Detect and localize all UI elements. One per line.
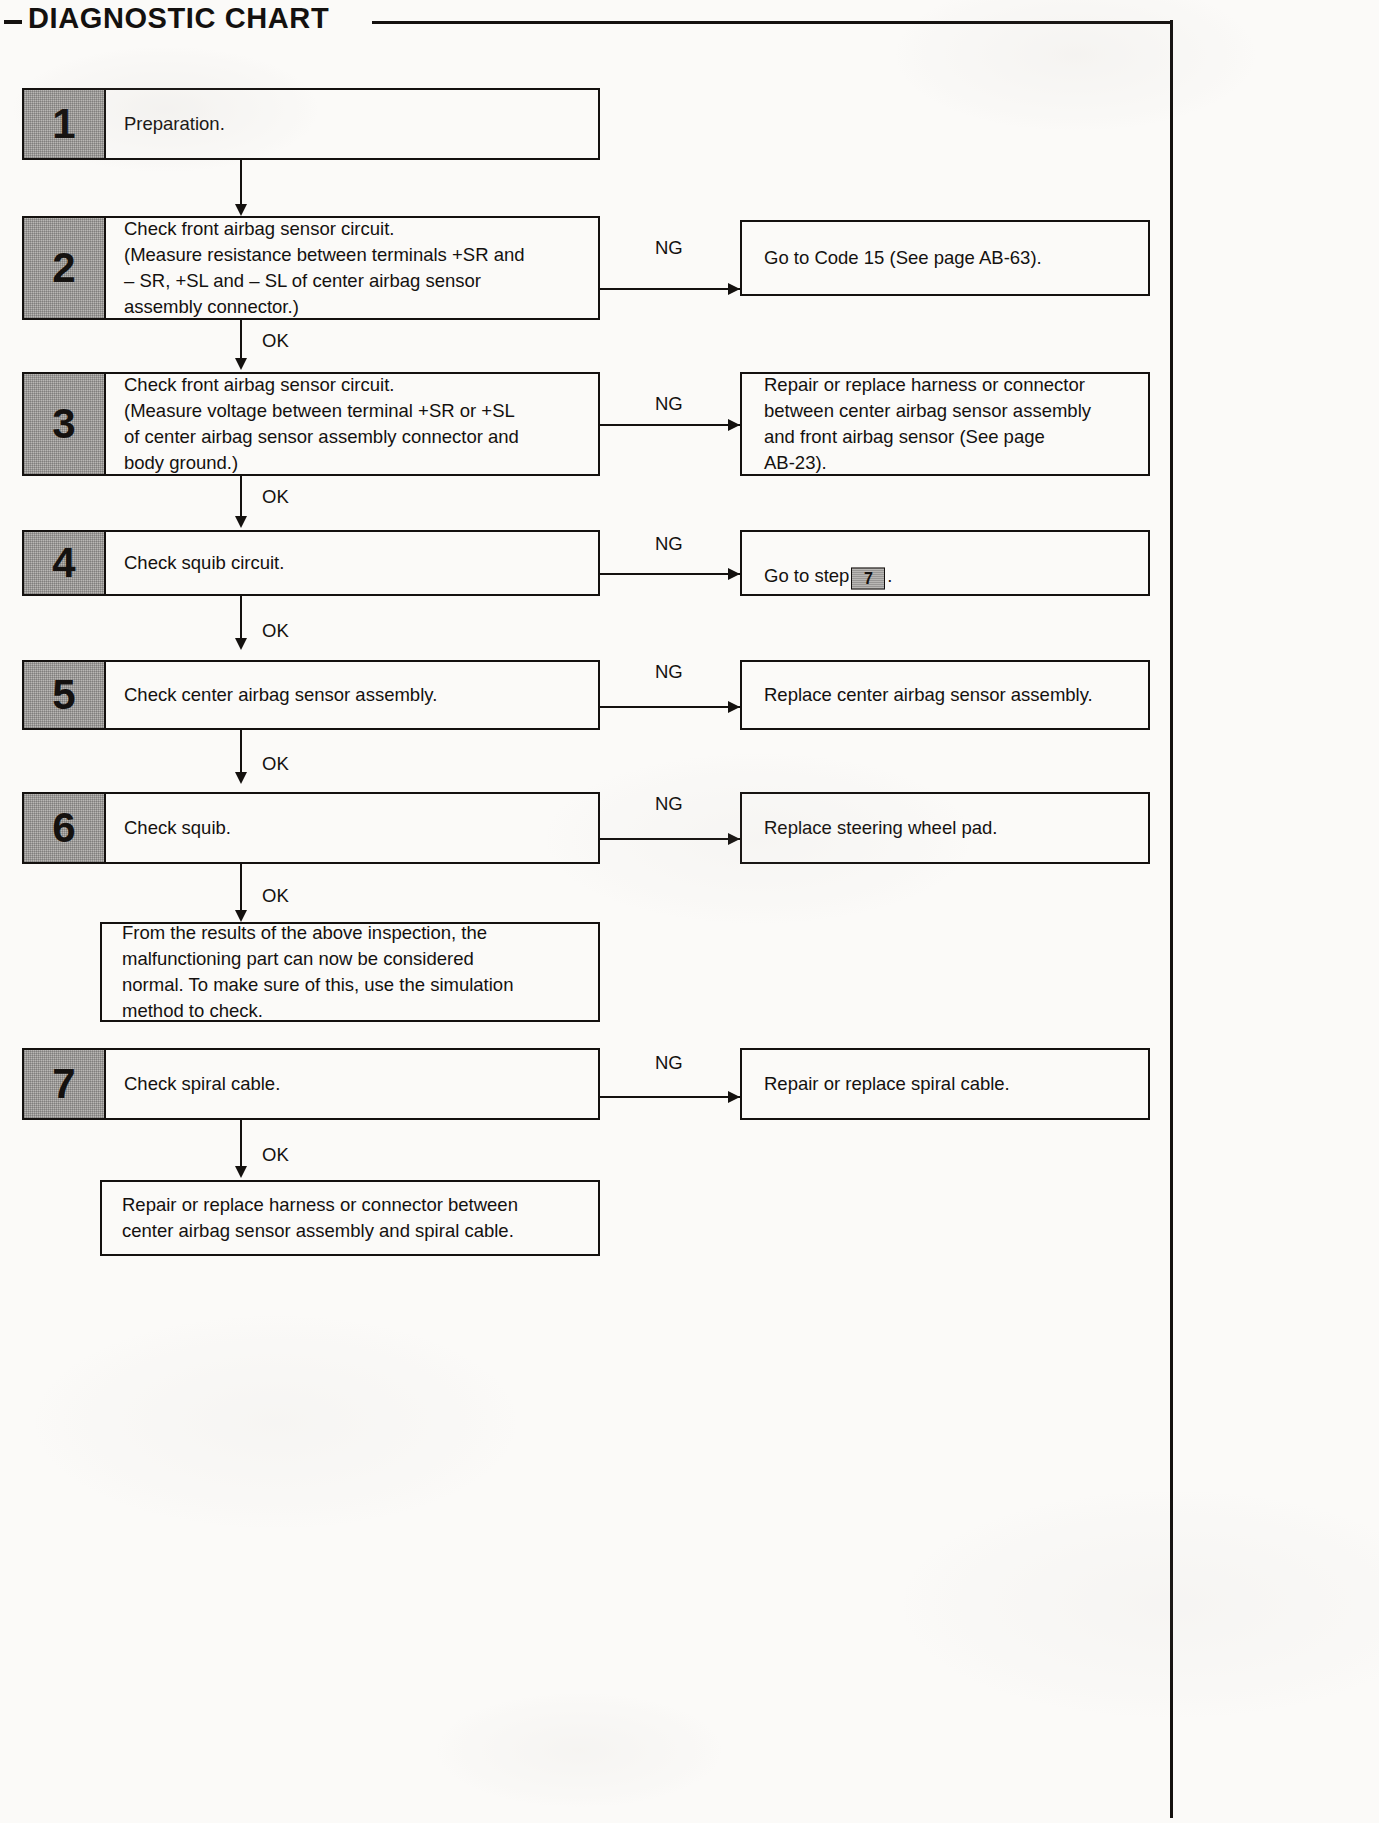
final-action-box[interactable]: Repair or replace harness or connector b… xyxy=(100,1180,600,1256)
connector-step1-step2 xyxy=(240,160,242,206)
step-5-badge: 5 xyxy=(24,662,106,728)
header-rule xyxy=(372,21,1172,24)
arrow-step2-ng xyxy=(728,283,740,295)
step-4-box[interactable]: 4 Check squib circuit. xyxy=(22,530,600,596)
arrow-step4-ng xyxy=(728,568,740,580)
final-action-text: Repair or replace harness or connector b… xyxy=(122,1192,586,1244)
arrow-step3-ng xyxy=(728,419,740,431)
step-7-ng-label: NG xyxy=(655,1052,683,1074)
page-title: DIAGNOSTIC CHART xyxy=(28,2,329,35)
step-3-box[interactable]: 3 Check front airbag sensor circuit. (Me… xyxy=(22,372,600,476)
diagnostic-chart-page: DIAGNOSTIC CHART 1 Preparation. 2 Check … xyxy=(0,0,1379,1823)
step-6-ng-text: Replace steering wheel pad. xyxy=(764,815,1134,841)
step-3-ok-label: OK xyxy=(262,486,289,508)
step-7-ng-text: Repair or replace spiral cable. xyxy=(764,1071,1134,1097)
step-2-ng-label: NG xyxy=(655,237,683,259)
step-1-number: 1 xyxy=(52,103,75,145)
step-4-ng-text-before: Go to step xyxy=(764,565,849,586)
step-7-badge: 7 xyxy=(24,1050,106,1118)
step-7-box[interactable]: 7 Check spiral cable. xyxy=(22,1048,600,1120)
header-dash-icon xyxy=(4,20,22,24)
step-4-ng-label: NG xyxy=(655,533,683,555)
step-6-ng-box[interactable]: Replace steering wheel pad. xyxy=(740,792,1150,864)
step-7-number: 7 xyxy=(52,1063,75,1105)
step-3-number: 3 xyxy=(52,403,75,445)
step-7-text: Check spiral cable. xyxy=(124,1071,586,1097)
step-2-ok-label: OK xyxy=(262,330,289,352)
step-1-badge: 1 xyxy=(24,90,106,158)
connector-step6-note xyxy=(240,864,242,912)
connector-step4-ng xyxy=(600,573,740,575)
step-6-box[interactable]: 6 Check squib. xyxy=(22,792,600,864)
step-6-ok-label: OK xyxy=(262,885,289,907)
normal-result-note-box[interactable]: From the results of the above inspection… xyxy=(100,922,600,1022)
connector-step3-ng xyxy=(600,424,740,426)
step-1-text: Preparation. xyxy=(124,111,586,137)
arrow-step1-step2 xyxy=(235,204,247,216)
page-frame-right-border xyxy=(1170,20,1173,1818)
step-5-ng-label: NG xyxy=(655,661,683,683)
step-2-ng-text: Go to Code 15 (See page AB-63). xyxy=(764,245,1134,271)
step-2-box[interactable]: 2 Check front airbag sensor circuit. (Me… xyxy=(22,216,600,320)
step-4-ng-text-after: . xyxy=(887,565,892,586)
connector-step7-ng xyxy=(600,1096,740,1098)
step-2-ng-box[interactable]: Go to Code 15 (See page AB-63). xyxy=(740,220,1150,296)
step-6-text: Check squib. xyxy=(124,815,586,841)
connector-step2-ng xyxy=(600,288,740,290)
arrow-step3-step4 xyxy=(235,516,247,528)
connector-step3-step4 xyxy=(240,476,242,518)
step-5-box[interactable]: 5 Check center airbag sensor assembly. xyxy=(22,660,600,730)
step-2-text: Check front airbag sensor circuit. (Meas… xyxy=(124,216,586,320)
arrow-step5-ng xyxy=(728,701,740,713)
arrow-step5-step6 xyxy=(235,772,247,784)
connector-step4-step5 xyxy=(240,596,242,640)
step-2-number: 2 xyxy=(52,247,75,289)
step-3-ng-box[interactable]: Repair or replace harness or connector b… xyxy=(740,372,1150,476)
step-3-badge: 3 xyxy=(24,374,106,474)
step-4-badge: 4 xyxy=(24,532,106,594)
step-5-text: Check center airbag sensor assembly. xyxy=(124,682,586,708)
connector-step6-ng xyxy=(600,838,740,840)
step-2-badge: 2 xyxy=(24,218,106,318)
step-6-ng-label: NG xyxy=(655,793,683,815)
step-7-reference-chip[interactable]: 7 xyxy=(851,568,885,590)
step-4-ok-label: OK xyxy=(262,620,289,642)
step-4-ng-box[interactable]: Go to step7. xyxy=(740,530,1150,596)
step-1-box[interactable]: 1 Preparation. xyxy=(22,88,600,160)
step-5-number: 5 xyxy=(52,674,75,716)
arrow-step7-ng xyxy=(728,1091,740,1103)
step-5-ng-box[interactable]: Replace center airbag sensor assembly. xyxy=(740,660,1150,730)
step-4-ng-text: Go to step7. xyxy=(764,537,1134,590)
arrow-step7-final xyxy=(235,1166,247,1178)
step-4-text: Check squib circuit. xyxy=(124,550,586,576)
step-7-ng-box[interactable]: Repair or replace spiral cable. xyxy=(740,1048,1150,1120)
step-6-number: 6 xyxy=(52,807,75,849)
step-5-ok-label: OK xyxy=(262,753,289,775)
step-3-text: Check front airbag sensor circuit. (Meas… xyxy=(124,372,586,476)
step-3-ng-label: NG xyxy=(655,393,683,415)
step-6-badge: 6 xyxy=(24,794,106,862)
step-3-ng-text: Repair or replace harness or connector b… xyxy=(764,372,1134,476)
arrow-step6-ng xyxy=(728,833,740,845)
connector-step5-step6 xyxy=(240,730,242,774)
connector-step7-final xyxy=(240,1120,242,1168)
connector-step2-step3 xyxy=(240,320,242,360)
step-5-ng-text: Replace center airbag sensor assembly. xyxy=(764,682,1134,708)
arrow-step4-step5 xyxy=(235,638,247,650)
connector-step5-ng xyxy=(600,706,740,708)
normal-result-note-text: From the results of the above inspection… xyxy=(122,920,586,1024)
step-4-number: 4 xyxy=(52,542,75,584)
step-7-ok-label: OK xyxy=(262,1144,289,1166)
arrow-step2-step3 xyxy=(235,358,247,370)
